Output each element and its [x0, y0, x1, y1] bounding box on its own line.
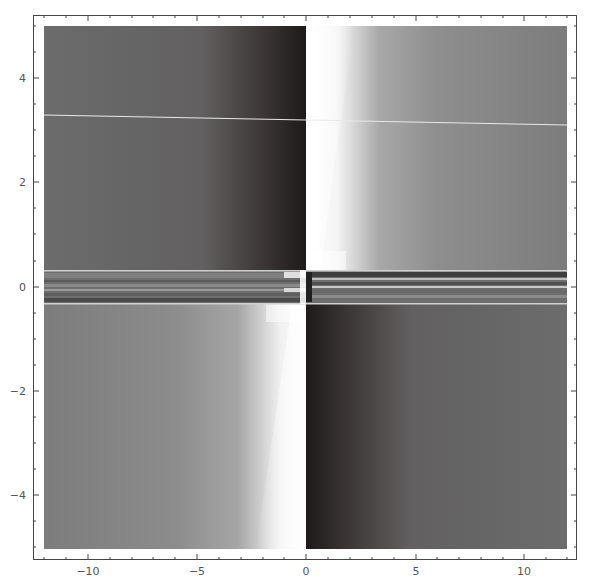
- y-tick-label: −2: [2, 385, 26, 398]
- x-tick-label: 10: [517, 565, 531, 578]
- x-tick-label: −10: [76, 565, 99, 578]
- y-tick-label: 2: [2, 176, 26, 189]
- x-tick-label: 0: [303, 565, 310, 578]
- y-tick-label: −4: [2, 489, 26, 502]
- y-tick-label: 4: [2, 72, 26, 85]
- y-tick-label: 0: [2, 281, 26, 294]
- axes: [0, 0, 595, 587]
- x-tick-label: −5: [189, 565, 205, 578]
- x-tick-label: 5: [413, 565, 420, 578]
